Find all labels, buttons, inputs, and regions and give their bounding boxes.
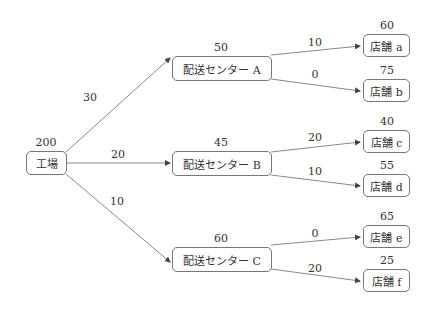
node-store-b-label: 店舗 b <box>370 83 403 99</box>
node-store-f-label: 店舗 f <box>372 273 402 289</box>
node-center-c-label: 配送センター C <box>183 252 261 268</box>
storeC-value: 40 <box>357 115 417 128</box>
centerA-value: 50 <box>191 41 251 54</box>
node-factory-label: 工場 <box>36 155 58 171</box>
factory-value: 200 <box>16 136 76 149</box>
storeB-value: 75 <box>357 64 417 77</box>
edge-label-b-d: 10 <box>300 165 330 178</box>
edge-label-c-f: 20 <box>300 262 330 275</box>
edge-label-factory-a: 30 <box>75 91 105 104</box>
edge-label-a-a: 10 <box>300 36 330 49</box>
node-center-b-label: 配送センター B <box>183 156 261 172</box>
node-store-d-label: 店舗 d <box>370 178 403 194</box>
centerB-value: 45 <box>191 136 251 149</box>
centerC-value: 60 <box>191 232 251 245</box>
node-store-f[interactable]: 店舗 f <box>363 269 410 292</box>
node-store-e-label: 店舗 e <box>370 229 402 245</box>
node-store-a[interactable]: 店舗 a <box>363 34 410 57</box>
node-store-e[interactable]: 店舗 e <box>363 225 410 248</box>
node-store-b[interactable]: 店舗 b <box>363 79 410 102</box>
node-store-d[interactable]: 店舗 d <box>363 174 410 197</box>
node-center-a[interactable]: 配送センター A <box>172 56 272 81</box>
edge-label-a-b: 0 <box>300 68 330 81</box>
edge-factory-A <box>66 58 170 152</box>
node-store-c[interactable]: 店舗 c <box>363 130 410 153</box>
storeA-value: 60 <box>357 19 417 32</box>
edge-label-c-e: 0 <box>300 227 330 240</box>
node-center-b[interactable]: 配送センター B <box>172 151 272 176</box>
node-store-c-label: 店舗 c <box>371 134 403 150</box>
edge-label-factory-b: 20 <box>103 148 133 161</box>
edge-factory-C <box>66 174 170 262</box>
node-factory[interactable]: 工場 <box>26 151 67 175</box>
storeD-value: 55 <box>357 159 417 172</box>
node-store-a-label: 店舗 a <box>370 38 402 54</box>
storeE-value: 65 <box>357 210 417 223</box>
edge-label-b-c: 20 <box>300 131 330 144</box>
edge-label-factory-c: 10 <box>102 195 132 208</box>
node-center-c[interactable]: 配送センター C <box>172 247 272 272</box>
node-center-a-label: 配送センター A <box>183 61 260 77</box>
storeF-value: 25 <box>357 254 417 267</box>
